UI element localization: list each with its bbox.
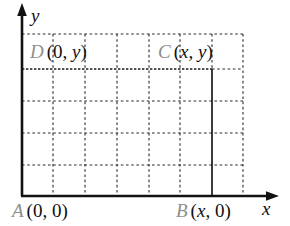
y-axis-label: y <box>31 6 39 25</box>
paren-close-C: ) <box>206 41 212 62</box>
vertex-coords-D: (0, y) <box>47 41 87 62</box>
coord-y-B: 0 <box>215 200 225 221</box>
coord-comma-B: , <box>205 200 215 221</box>
vertex-label-B: B(x, 0) <box>176 201 231 220</box>
vertex-label-A: A(0, 0) <box>12 201 68 220</box>
vertex-letter-B: B <box>176 200 191 221</box>
vertex-letter-C: C <box>158 41 174 62</box>
vertex-coords-A: (0, 0) <box>27 200 68 221</box>
coord-comma-D: , <box>63 41 73 62</box>
coord-comma-A: , <box>42 200 52 221</box>
paren-close-B: ) <box>224 200 230 221</box>
x-axis-label: x <box>262 199 270 218</box>
vertex-coords-C: (x, y) <box>174 41 213 62</box>
axes <box>17 3 279 201</box>
vertex-letter-D: D <box>30 41 47 62</box>
coordinate-diagram: y x D(0, y) C(x, y) A(0, 0) B(x, 0) <box>0 0 290 226</box>
coord-x-A: 0 <box>33 200 43 221</box>
vertex-letter-A: A <box>12 200 27 221</box>
vertex-label-D: D(0, y) <box>30 42 87 61</box>
y-axis-arrowhead <box>17 3 27 16</box>
vertex-coords-B: (x, 0) <box>191 200 231 221</box>
coord-y-A: 0 <box>52 200 62 221</box>
paren-close-A: ) <box>61 200 67 221</box>
diagram-canvas <box>0 0 290 226</box>
vertex-label-C: C(x, y) <box>158 42 213 61</box>
coord-y-D: y <box>72 41 80 62</box>
paren-close-D: ) <box>81 41 87 62</box>
coord-comma-C: , <box>188 41 198 62</box>
coord-x-D: 0 <box>53 41 63 62</box>
